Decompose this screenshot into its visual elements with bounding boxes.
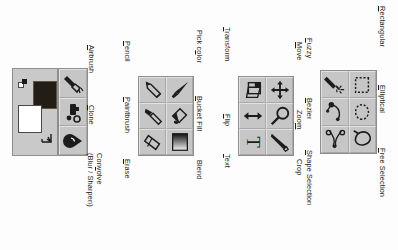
label-paintbrush: Paintbrush	[123, 97, 131, 133]
convolve-icon	[61, 129, 85, 153]
group-paint-fill-tools	[138, 76, 194, 156]
flip-icon	[242, 105, 264, 127]
rectangular-select-icon	[351, 74, 373, 96]
move-icon	[269, 79, 291, 101]
label-pick-color: Pick color	[195, 30, 203, 63]
group-transform-tools: T	[238, 76, 294, 156]
tool-button-free-selection[interactable]	[349, 126, 377, 153]
tool-button-elliptical-select[interactable]	[349, 98, 377, 125]
tool-button-erase[interactable]	[139, 129, 166, 155]
label-convolve: Convolve (Blur / Sharpen)	[86, 153, 103, 207]
label-bezier: Bezier	[305, 98, 313, 120]
tool-button-fuzzy-select[interactable]	[321, 71, 349, 98]
tool-button-crop[interactable]	[266, 129, 293, 155]
shape-selection-icon	[324, 128, 346, 150]
tool-button-pick-color[interactable]	[166, 77, 193, 103]
bucket-fill-icon	[169, 105, 191, 127]
label-bucket-fill: Bucket Fill	[195, 96, 203, 131]
pencil-icon	[142, 79, 164, 101]
label-blend: Blend	[195, 160, 203, 179]
transform-icon	[242, 79, 264, 101]
toolbox-diagram: T	[0, 0, 398, 250]
color-swatch-area[interactable]	[12, 68, 58, 156]
airbrush-icon	[61, 71, 85, 95]
paintbrush-icon	[142, 105, 164, 127]
clone-icon	[61, 100, 85, 124]
label-rectangular: Rectangular	[378, 6, 386, 47]
tool-button-shape-selection[interactable]	[321, 126, 349, 153]
fuzzy-select-icon	[324, 74, 346, 96]
tool-button-airbrush[interactable]	[59, 69, 87, 98]
tool-button-blend[interactable]	[166, 129, 193, 155]
pick-color-icon	[169, 79, 191, 101]
default-colors-icon[interactable]	[18, 82, 28, 92]
label-move: Move	[295, 42, 303, 60]
tool-button-pencil[interactable]	[139, 77, 166, 103]
label-zoom: Zoom	[295, 110, 303, 129]
tool-button-paintbrush[interactable]	[139, 103, 166, 129]
crop-icon	[269, 131, 291, 153]
swap-colors-icon[interactable]	[40, 131, 54, 145]
tool-button-bezier-select[interactable]	[321, 98, 349, 125]
label-flip: Flip	[223, 114, 231, 126]
tool-button-clone[interactable]	[59, 98, 87, 127]
tool-button-move[interactable]	[266, 77, 293, 103]
label-airbrush: Airbrush	[87, 45, 95, 73]
background-color-swatch[interactable]	[18, 105, 42, 133]
label-shape-selection: Shape Selection	[305, 150, 313, 205]
zoom-icon	[269, 105, 291, 127]
svg-text:T: T	[242, 136, 262, 147]
tool-button-transform[interactable]	[239, 77, 266, 103]
tool-button-bucket-fill[interactable]	[166, 103, 193, 129]
label-convolve-line2: (Blur / Sharpen)	[86, 153, 95, 207]
label-crop: Crop	[295, 159, 303, 175]
free-selection-icon	[351, 128, 373, 150]
tool-button-convolve[interactable]	[59, 126, 87, 155]
blend-icon	[169, 131, 191, 153]
erase-icon	[142, 131, 164, 153]
label-pencil: Pencil	[123, 41, 131, 62]
group-brush-tools	[58, 68, 88, 156]
label-erase: Erase	[123, 159, 131, 179]
tool-button-rectangular-select[interactable]	[349, 71, 377, 98]
label-transform: Transform	[223, 27, 231, 61]
label-free-selection: Free Selection	[378, 148, 386, 197]
label-clone: Clone	[87, 105, 95, 125]
group-selection-tools	[320, 70, 377, 154]
tool-button-zoom[interactable]	[266, 103, 293, 129]
label-fuzzy: Fuzzy	[305, 38, 313, 58]
tool-button-text[interactable]: T	[239, 129, 266, 155]
bezier-select-icon	[324, 101, 346, 123]
tool-button-flip[interactable]	[239, 103, 266, 129]
text-icon: T	[242, 131, 264, 153]
elliptical-select-icon	[351, 101, 373, 123]
label-text: Text	[223, 154, 231, 168]
label-elliptical: Elliptical	[378, 85, 386, 113]
